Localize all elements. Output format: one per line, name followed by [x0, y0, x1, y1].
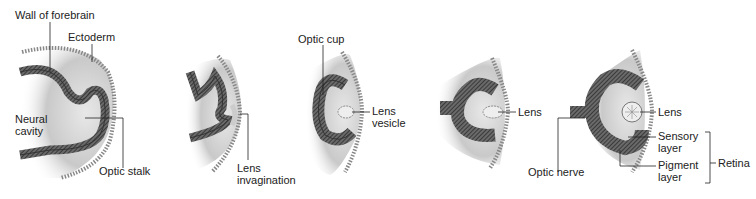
label-neural-cavity-1: Neural: [15, 113, 47, 125]
label-sensory-layer-1: Sensory: [658, 130, 698, 142]
stage-2: [185, 56, 241, 172]
label-retina: Retina: [718, 157, 750, 169]
label-optic-stalk: Optic stalk: [99, 165, 150, 177]
label-lens-vesicle-2: vesicle: [372, 117, 406, 129]
label-lens-invagination-2: invagination: [237, 174, 296, 186]
label-optic-nerve: Optic nerve: [528, 166, 584, 178]
label-lens-stage5: Lens: [658, 106, 682, 118]
label-lens-stage4: Lens: [518, 106, 542, 118]
stage-4: [435, 58, 508, 168]
label-optic-cup: Optic cup: [298, 33, 344, 45]
label-neural-cavity-2: cavity: [15, 125, 43, 137]
label-wall-of-forebrain: Wall of forebrain: [15, 9, 95, 21]
label-lens-vesicle-1: Lens: [372, 105, 396, 117]
label-lens-invagination-1: Lens: [237, 162, 261, 174]
label-pigment-layer-1: Pigment: [658, 159, 698, 171]
stage-3: [305, 52, 362, 175]
label-sensory-layer-2: layer: [658, 142, 682, 154]
label-pigment-layer-2: layer: [658, 171, 682, 183]
stage-5: [570, 50, 652, 172]
label-ectoderm: Ectoderm: [68, 31, 115, 43]
